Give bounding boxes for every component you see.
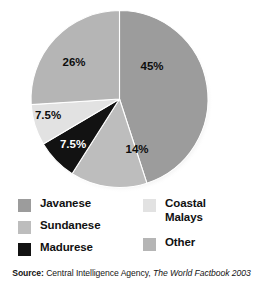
source-prefix: Source:	[12, 268, 44, 278]
legend-swatch-coastal-malays	[143, 199, 156, 212]
legend-swatch-madurese	[18, 243, 31, 256]
source-agency: Central Intelligence Agency,	[46, 268, 151, 278]
legend-label-other: Other	[165, 236, 195, 250]
pie-slices-group	[31, 11, 208, 188]
legend-column-right: Coastal Malays Other	[143, 197, 206, 258]
legend-item-coastal-malays[interactable]: Coastal Malays	[143, 197, 206, 231]
source-publication: The World Factbook 2003	[153, 268, 251, 278]
pie-slice-value-sundanese: 14%	[125, 143, 148, 155]
legend-swatch-other	[143, 238, 156, 251]
pie-chart-area: 45%14%7.5%7.5%26%	[0, 0, 263, 196]
pie-chart-figure: 45%14%7.5%7.5%26% Javanese Sundanese Mad…	[0, 0, 263, 291]
chart-legend: Javanese Sundanese Madurese Coastal Mala…	[0, 197, 263, 263]
legend-label-coastal-malays: Coastal Malays	[165, 197, 206, 224]
legend-item-madurese[interactable]: Madurese	[18, 241, 100, 258]
legend-label-sundanese: Sundanese	[40, 219, 100, 233]
legend-label-javanese: Javanese	[40, 197, 91, 211]
pie-slice-value-javanese: 45%	[140, 60, 163, 72]
pie-chart-svg: 45%14%7.5%7.5%26%	[0, 0, 263, 196]
legend-label-madurese: Madurese	[40, 241, 93, 255]
pie-slice-value-madurese: 7.5%	[60, 138, 86, 150]
legend-item-javanese[interactable]: Javanese	[18, 197, 100, 214]
pie-slice-value-other: 26%	[62, 56, 85, 68]
legend-swatch-javanese	[18, 199, 31, 212]
source-note: Source: Central Intelligence Agency, The…	[0, 268, 263, 278]
legend-item-other[interactable]: Other	[143, 236, 206, 253]
legend-swatch-sundanese	[18, 221, 31, 234]
legend-item-sundanese[interactable]: Sundanese	[18, 219, 100, 236]
pie-slice-value-coastal-malays: 7.5%	[35, 109, 61, 121]
legend-column-left: Javanese Sundanese Madurese	[18, 197, 100, 263]
